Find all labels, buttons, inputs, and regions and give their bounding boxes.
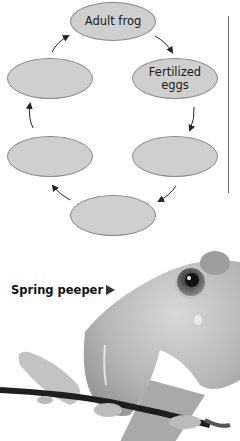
spring-peeper-caption: Spring peeper	[11, 283, 115, 297]
frog-life-cycle-diagram: Adult frog Fertilized eggs	[0, 0, 240, 441]
spring-peeper-photo	[0, 0, 240, 441]
caption-text: Spring peeper	[11, 283, 103, 297]
pointer-triangle-icon	[106, 285, 115, 295]
